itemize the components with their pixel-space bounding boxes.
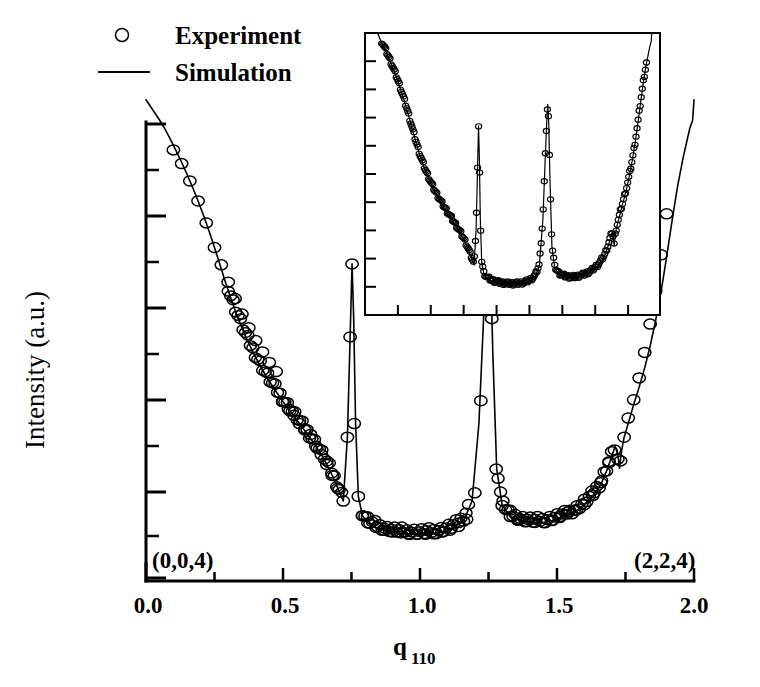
y-axis-title: Intensity (a.u.) [20,291,50,449]
x-tick-label-2: 1.0 [408,593,437,618]
inset-panel [365,24,660,315]
x-axis-major-ticks [146,562,694,581]
right-bragg-label: (2,2,4) [634,548,695,573]
x-axis-title-main: q [393,633,407,660]
experiment-data-point [660,209,672,219]
x-tick-label-4: 2.0 [680,593,709,618]
x-tick-label-3: 1.5 [545,593,574,618]
x-axis-tick-labels: 0.0 0.5 1.0 1.5 2.0 [134,593,709,618]
x-axis-title: q 110 [393,633,436,668]
figure-container: Experiment Simulation [0,0,760,687]
x-tick-label-0: 0.0 [134,593,163,618]
y-axis-major-ticks [146,124,166,578]
experiment-data-point [222,277,234,287]
inset-frame [365,33,660,315]
left-bragg-label: (0,0,4) [152,548,213,573]
experiment-data-point [348,419,360,429]
chart-svg: Experiment Simulation [0,0,760,687]
legend-label-simulation: Simulation [175,59,292,86]
legend-label-experiment: Experiment [175,22,302,49]
x-tick-label-1: 0.5 [271,593,300,618]
x-axis-title-sub: 110 [411,649,436,668]
experiment-data-point [469,488,481,498]
y-axis-minor-ticks [146,170,159,536]
legend: Experiment Simulation [98,22,302,86]
legend-marker-experiment [116,29,129,42]
experiment-data-point [633,373,645,383]
